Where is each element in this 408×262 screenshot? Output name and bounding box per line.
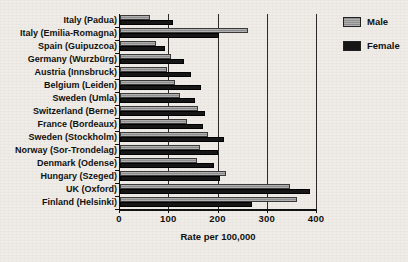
x-axis-label: Rate per 100,000: [119, 231, 317, 242]
bar-male-5: [120, 80, 175, 85]
legend-item-male: Male: [343, 16, 400, 27]
legend-swatch-female-icon: [343, 41, 361, 51]
y-axis-label-10: Norway (Sor-Trondelag): [0, 145, 117, 155]
gridline-300: [267, 14, 268, 210]
bar-male-2: [120, 41, 156, 46]
x-tick-label-0: 0: [116, 213, 121, 224]
legend-label-female: Female: [367, 40, 400, 51]
chart-figure: 0100200300400 Italy (Padua)Italy (Emilia…: [0, 0, 408, 262]
y-axis-label-4: Austria (Innsbruck): [0, 67, 117, 77]
y-axis-label-0: Italy (Padua): [0, 15, 117, 25]
bar-female-1: [120, 33, 219, 38]
x-tick-label-300: 300: [259, 213, 275, 224]
bar-female-5: [120, 85, 201, 90]
legend-swatch-male-icon: [343, 17, 361, 27]
y-axis-label-12: Hungary (Szeged): [0, 171, 117, 181]
y-axis-label-2: Spain (Guipuzcoa): [0, 41, 117, 51]
bar-male-0: [120, 15, 150, 20]
bar-male-10: [120, 145, 200, 150]
bar-male-11: [120, 158, 197, 163]
bar-female-0: [120, 20, 173, 25]
y-axis-label-1: Italy (Emilia-Romagna): [0, 28, 117, 38]
bar-female-14: [120, 202, 252, 207]
bar-female-8: [120, 124, 203, 129]
bar-female-7: [120, 111, 205, 116]
bar-female-3: [120, 59, 184, 64]
y-axis-label-14: Finland (Helsinki): [0, 197, 117, 207]
bar-male-13: [120, 184, 290, 189]
x-tick-label-400: 400: [308, 213, 324, 224]
bar-male-14: [120, 197, 297, 202]
y-axis-label-6: Sweden (Umla): [0, 93, 117, 103]
y-axis-label-7: Switzerland (Berne): [0, 106, 117, 116]
bar-male-8: [120, 119, 187, 124]
chart-legend: Male Female: [343, 16, 400, 64]
bar-female-2: [120, 46, 165, 51]
y-axis-label-8: France (Bordeaux): [0, 119, 117, 129]
bar-male-3: [120, 54, 171, 59]
x-tick-label-200: 200: [209, 213, 225, 224]
bar-female-9: [120, 137, 224, 142]
bar-male-1: [120, 28, 248, 33]
y-axis-label-13: UK (Oxford): [0, 184, 117, 194]
x-tick-label-100: 100: [160, 213, 176, 224]
gridline-400: [316, 14, 317, 210]
y-axis-label-3: Germany (Wurzbürg): [0, 54, 117, 64]
bar-male-7: [120, 106, 198, 111]
bar-female-13: [120, 189, 310, 194]
legend-label-male: Male: [367, 16, 388, 27]
bar-male-12: [120, 171, 226, 176]
bar-male-4: [120, 67, 167, 72]
bar-female-4: [120, 72, 191, 77]
bar-female-11: [120, 163, 214, 168]
bar-female-6: [120, 98, 195, 103]
bar-male-9: [120, 132, 208, 137]
bar-female-10: [120, 150, 218, 155]
bar-female-12: [120, 176, 220, 181]
y-axis-label-5: Belgium (Leiden): [0, 80, 117, 90]
y-axis-label-9: Sweden (Stockholm): [0, 132, 117, 142]
bar-male-6: [120, 93, 180, 98]
y-axis-label-11: Denmark (Odense): [0, 158, 117, 168]
y-tick-14: [115, 209, 119, 210]
legend-item-female: Female: [343, 40, 400, 51]
